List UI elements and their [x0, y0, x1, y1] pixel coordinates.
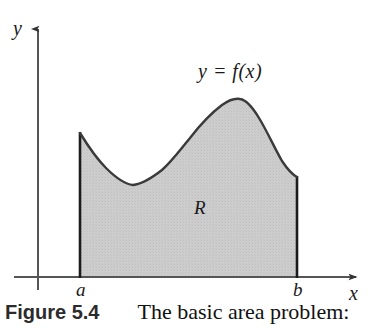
figure-container: y x a b R y = f(x) Figure 5.4 The basic … — [0, 0, 383, 328]
figure-number: Figure 5.4 — [0, 300, 99, 324]
tick-label-a: a — [76, 280, 86, 299]
tick-label-b: b — [293, 280, 303, 299]
figure-caption-text: The basic area problem: — [137, 300, 349, 324]
region-label-r: R — [194, 198, 206, 217]
figure-caption: Figure 5.4 The basic area problem: — [0, 300, 383, 328]
area-under-curve-plot — [0, 0, 383, 300]
y-axis-label: y — [13, 18, 22, 38]
curve-equation-label: y = f(x) — [198, 61, 262, 81]
